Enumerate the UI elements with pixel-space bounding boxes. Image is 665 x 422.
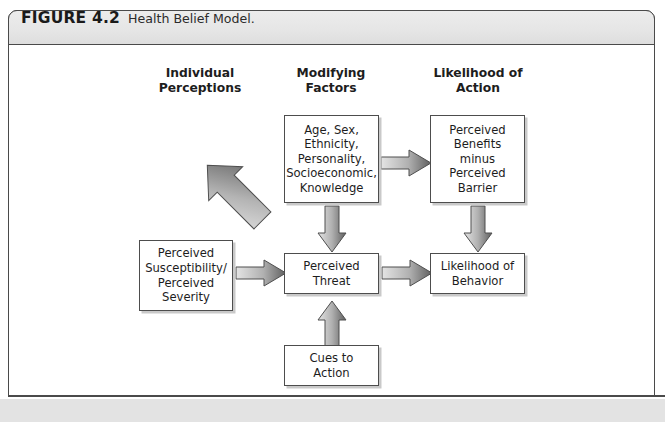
- arrow-demographics-to-threat: [316, 204, 348, 254]
- figure-caption: Health Belief Model.: [128, 11, 255, 26]
- page-bottom-band: [0, 399, 665, 422]
- arrow-demographics-to-susceptibility: [182, 145, 292, 245]
- node-cues-to-action: Cues to Action: [284, 345, 379, 386]
- figure-title: FIGURE 4.2Health Belief Model.: [21, 10, 255, 27]
- arrow-threat-to-likelihood: [380, 258, 434, 288]
- arrow-benefits-to-likelihood: [462, 204, 494, 254]
- figure-health-belief-model: FIGURE 4.2Health Belief Model. Individua…: [0, 0, 665, 422]
- node-perceived-threat: Perceived Threat: [284, 253, 379, 294]
- node-likelihood-of-behavior: Likelihood of Behavior: [430, 253, 525, 294]
- column-heading-modifying-factors: Modifying Factors: [271, 66, 391, 95]
- arrow-susceptibility-to-threat: [234, 258, 288, 288]
- figure-bottom-rule: [8, 395, 665, 397]
- node-demographics: Age, Sex, Ethnicity, Personality, Socioe…: [284, 115, 379, 203]
- arrow-cues-to-threat: [316, 298, 348, 350]
- figure-number: FIGURE 4.2: [21, 9, 120, 27]
- node-susceptibility-severity: Perceived Susceptibility/ Perceived Seve…: [139, 240, 233, 311]
- node-benefits-minus-barrier: Perceived Benefits minus Perceived Barri…: [430, 115, 525, 203]
- column-heading-likelihood-of-action: Likelihood of Action: [417, 66, 539, 95]
- arrow-demographics-to-benefits: [379, 148, 433, 178]
- column-heading-individual-perceptions: Individual Perceptions: [140, 66, 260, 95]
